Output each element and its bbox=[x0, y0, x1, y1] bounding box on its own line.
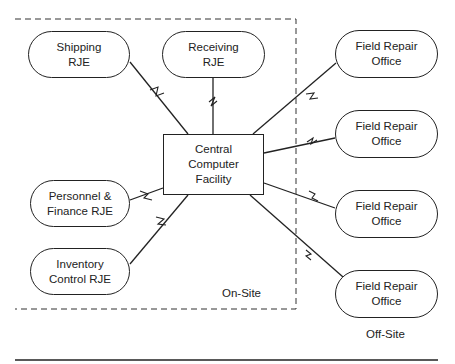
break-icon bbox=[306, 93, 318, 99]
node-inventory-control-rje: Inventory Control RJE bbox=[30, 248, 130, 295]
central-computer-facility: Central Computer Facility bbox=[163, 134, 264, 195]
link-field4 bbox=[250, 195, 343, 277]
node-receiving-rje: Receiving RJE bbox=[162, 31, 265, 78]
node-field-repair-office-2: Field Repair Office bbox=[335, 110, 438, 158]
link-inventory bbox=[130, 195, 188, 264]
link-field1 bbox=[253, 63, 336, 134]
break-icon bbox=[209, 97, 217, 106]
link-field3 bbox=[264, 183, 335, 208]
node-field-repair-office-1: Field Repair Office bbox=[335, 30, 438, 78]
node-personnel-finance-rje: Personnel & Finance RJE bbox=[30, 180, 130, 227]
node-field-repair-office-3: Field Repair Office bbox=[335, 190, 438, 238]
node-shipping-rje: Shipping RJE bbox=[28, 31, 130, 78]
off-site-label: Off-Site bbox=[366, 328, 405, 340]
on-site-label: On-Site bbox=[222, 287, 261, 299]
node-field-repair-office-4: Field Repair Office bbox=[335, 270, 438, 318]
break-icon bbox=[306, 250, 311, 260]
link-field2 bbox=[264, 138, 335, 153]
